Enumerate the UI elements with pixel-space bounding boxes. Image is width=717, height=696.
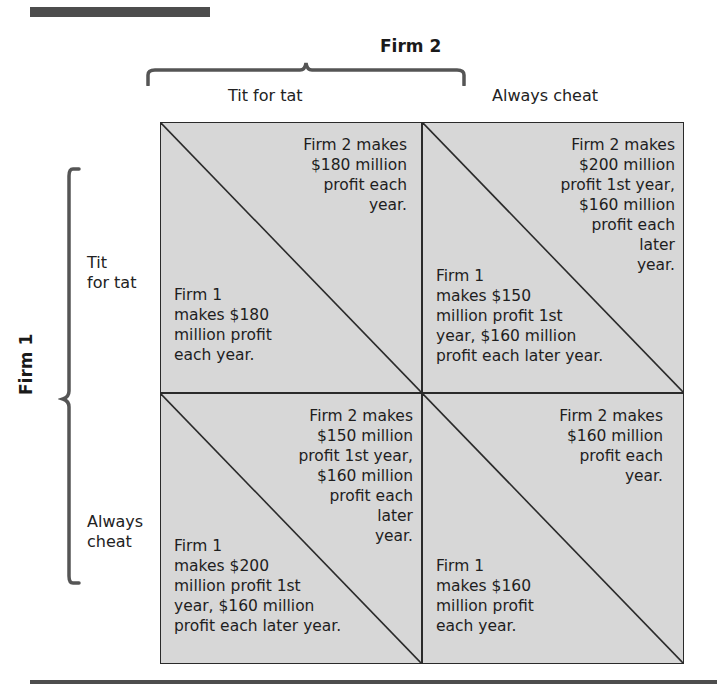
cell-always-cheat-tit-for-tat: Firm 2 makes $150 million profit 1st yea… (160, 393, 422, 664)
column-label-always-cheat: Always cheat (492, 86, 598, 105)
row-brace (58, 166, 86, 586)
firm1-payoff: Firm 1 makes $150 million profit 1st yea… (436, 266, 603, 366)
payoff-matrix: Firm 2 makes $180 million profit each ye… (160, 122, 684, 664)
firm2-payoff: Firm 2 makes $200 million profit 1st yea… (560, 135, 675, 275)
firm2-payoff: Firm 2 makes $150 million profit 1st yea… (298, 406, 413, 546)
cell-tit-for-tat-always-cheat: Firm 2 makes $200 million profit 1st yea… (422, 122, 684, 393)
row-label-always-cheat: Always cheat (87, 512, 143, 552)
firm1-payoff: Firm 1 makes $180 million profit each ye… (174, 285, 272, 365)
cell-always-cheat-always-cheat: Firm 2 makes $160 million profit each ye… (422, 393, 684, 664)
firm2-payoff: Firm 2 makes $180 million profit each ye… (303, 135, 407, 215)
top-decorative-bar (30, 7, 210, 17)
firm1-payoff: Firm 1 makes $200 million profit 1st yea… (174, 536, 341, 636)
row-label-tit-for-tat: Tit for tat (87, 253, 136, 293)
firm1-payoff: Firm 1 makes $160 million profit each ye… (436, 556, 534, 636)
bottom-rule (30, 680, 717, 684)
column-player-label: Firm 2 (380, 36, 441, 56)
cell-tit-for-tat-tit-for-tat: Firm 2 makes $180 million profit each ye… (160, 122, 422, 393)
firm2-payoff: Firm 2 makes $160 million profit each ye… (559, 406, 663, 486)
column-brace (145, 58, 470, 86)
row-player-label: Firm 1 (16, 334, 36, 395)
column-label-tit-for-tat: Tit for tat (228, 86, 303, 105)
